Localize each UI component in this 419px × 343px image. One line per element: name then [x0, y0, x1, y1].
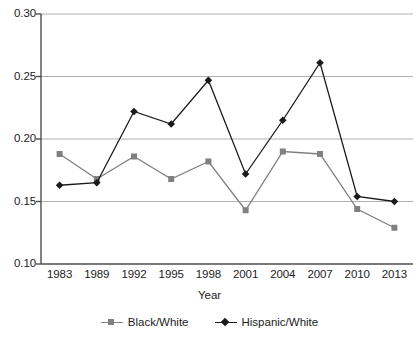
- x-tick-label: 1983: [40, 268, 80, 280]
- data-point-marker: [242, 170, 250, 178]
- data-point-marker: [316, 59, 324, 67]
- x-tick-label: 2004: [263, 268, 303, 280]
- legend-marker-diamond-icon: [215, 317, 237, 327]
- data-point-marker: [391, 225, 397, 231]
- data-point-marker: [131, 154, 137, 160]
- figure-caption: [0, 336, 419, 343]
- data-point-marker: [354, 206, 360, 212]
- x-tick-label: 1992: [114, 268, 154, 280]
- series-line: [60, 63, 395, 202]
- data-point-marker: [280, 149, 286, 155]
- legend-marker-square-icon: [101, 317, 123, 327]
- x-tick-label: 2001: [226, 268, 266, 280]
- x-tick-label: 2010: [337, 268, 377, 280]
- chart-legend: Black/White Hispanic/White: [0, 316, 419, 328]
- data-point-marker: [57, 151, 63, 157]
- x-tick-label: 1989: [77, 268, 117, 280]
- data-point-marker: [279, 116, 287, 124]
- data-point-marker: [353, 193, 361, 201]
- plot-canvas: [0, 0, 419, 290]
- data-point-marker: [317, 151, 323, 157]
- legend-item-hispanic-white[interactable]: Hispanic/White: [215, 316, 319, 328]
- data-point-marker: [391, 198, 399, 206]
- x-axis-title: Year: [0, 289, 419, 301]
- data-point-marker: [130, 108, 138, 116]
- data-point-marker: [205, 159, 211, 165]
- x-tick-label: 2007: [300, 268, 340, 280]
- legend-label: Hispanic/White: [242, 316, 319, 328]
- series-line: [60, 152, 395, 228]
- data-series-layer: [56, 59, 398, 231]
- x-tick-label: 1998: [188, 268, 228, 280]
- gridlines: [41, 14, 413, 202]
- data-point-marker: [56, 181, 64, 189]
- plot-area: 0.10 0.15 0.20 0.25 0.30: [0, 0, 419, 290]
- legend-item-black-white[interactable]: Black/White: [101, 316, 189, 328]
- x-tick-label: 2013: [374, 268, 414, 280]
- legend-label: Black/White: [128, 316, 189, 328]
- line-chart-figure: 0.10 0.15 0.20 0.25 0.30: [0, 0, 419, 343]
- x-tick-label: 1995: [151, 268, 191, 280]
- x-axis-tick-labels: 1983198919921995199820012004200720102013: [41, 268, 413, 286]
- data-point-marker: [168, 176, 174, 182]
- data-point-marker: [243, 207, 249, 213]
- series-hispanic-white: [56, 59, 398, 205]
